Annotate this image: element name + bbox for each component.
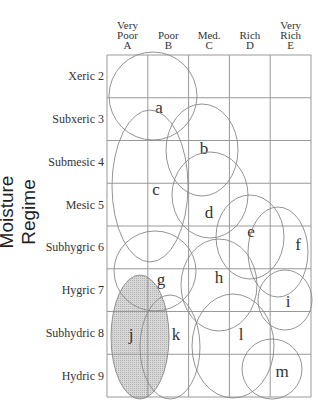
region-label-i: i	[286, 292, 291, 311]
region-label-h: h	[215, 268, 224, 287]
region-m	[242, 339, 302, 399]
region-label-k: k	[172, 325, 181, 344]
region-label-j: j	[128, 325, 134, 344]
region-label-l: l	[239, 325, 244, 344]
region-l	[192, 294, 274, 398]
region-label-d: d	[205, 203, 214, 222]
region-label-m: m	[275, 362, 288, 381]
region-label-c: c	[152, 180, 160, 199]
region-label-g: g	[157, 270, 166, 289]
ecological-grid: abcdefghijklm	[0, 0, 318, 414]
region-a	[109, 52, 197, 140]
region-label-b: b	[200, 139, 209, 158]
region-label-f: f	[295, 235, 301, 254]
